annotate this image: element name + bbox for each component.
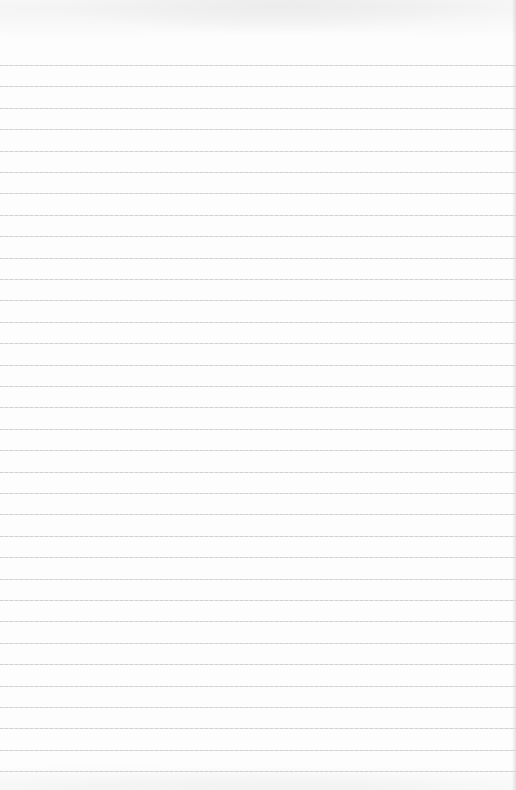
ruled-line — [0, 728, 516, 729]
paper-texture-top — [0, 0, 516, 45]
ruled-line — [0, 343, 516, 344]
ruled-line — [0, 258, 516, 259]
lined-paper-sheet — [0, 0, 516, 790]
ruled-line — [0, 750, 516, 751]
ruled-line — [0, 172, 516, 173]
ruled-line — [0, 472, 516, 473]
ruled-line — [0, 771, 516, 772]
ruled-line — [0, 215, 516, 216]
ruled-line — [0, 664, 516, 665]
ruled-line — [0, 600, 516, 601]
paper-texture-bottom — [0, 760, 516, 790]
ruled-line — [0, 365, 516, 366]
ruled-line — [0, 450, 516, 451]
ruled-line — [0, 429, 516, 430]
ruled-line — [0, 236, 516, 237]
ruled-line — [0, 65, 516, 66]
ruled-line — [0, 621, 516, 622]
ruled-line — [0, 579, 516, 580]
ruled-line — [0, 557, 516, 558]
ruled-line — [0, 493, 516, 494]
ruled-line — [0, 129, 516, 130]
ruled-line — [0, 86, 516, 87]
ruled-line — [0, 707, 516, 708]
ruled-line — [0, 407, 516, 408]
paper-right-edge — [512, 0, 516, 790]
ruled-line — [0, 300, 516, 301]
ruled-line — [0, 279, 516, 280]
ruled-line — [0, 108, 516, 109]
ruled-line — [0, 643, 516, 644]
ruled-line — [0, 386, 516, 387]
ruled-line — [0, 322, 516, 323]
ruled-line — [0, 151, 516, 152]
ruled-line — [0, 514, 516, 515]
ruled-line — [0, 686, 516, 687]
ruled-line — [0, 193, 516, 194]
ruled-line — [0, 536, 516, 537]
